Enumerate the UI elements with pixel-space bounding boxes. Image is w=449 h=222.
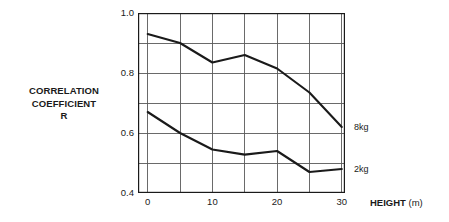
y-axis-label-line-3: R — [8, 110, 120, 123]
y-axis-label: CORRELATION COEFFICIENT R — [8, 85, 120, 123]
y-axis-label-line-1: CORRELATION — [8, 85, 120, 98]
chart-figure: CORRELATION COEFFICIENT R HEIGHT (m) 0.4… — [0, 0, 449, 222]
x-axis-tick-label: 0 — [128, 196, 168, 207]
plot-area — [138, 13, 345, 193]
y-axis-tick-label: 0.6 — [104, 127, 134, 138]
x-axis-label: HEIGHT (m) — [370, 197, 423, 208]
y-axis-label-line-2: COEFFICIENT — [8, 98, 120, 111]
x-axis-tick-label: 10 — [192, 196, 232, 207]
series-label-2kg: 2kg — [354, 164, 369, 174]
series-label-8kg: 8kg — [354, 122, 369, 132]
x-axis-tick-label: 30 — [322, 196, 362, 207]
x-axis-label-unit: (m) — [409, 197, 423, 208]
y-axis-tick-label: 0.8 — [104, 67, 134, 78]
x-axis-label-text: HEIGHT — [370, 197, 406, 208]
x-axis-tick-label: 20 — [257, 196, 297, 207]
y-axis-tick-label: 1.0 — [104, 7, 134, 18]
